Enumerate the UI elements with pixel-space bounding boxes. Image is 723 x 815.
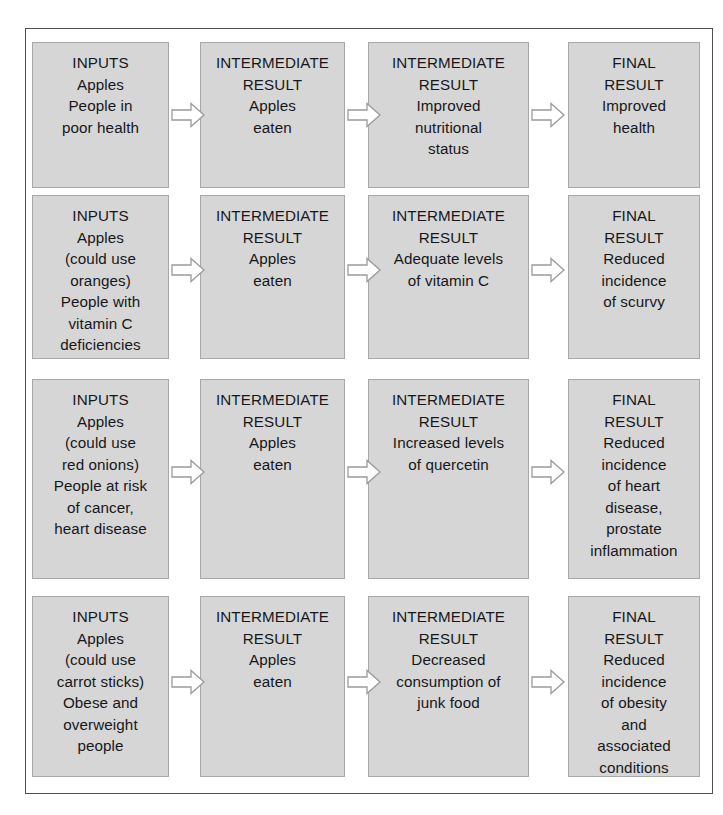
box-header-line: RESULT [569, 227, 699, 249]
box-body-line: Obese and [33, 692, 168, 714]
box-body-line: Adequate levels [369, 248, 528, 270]
box-body-line: health [569, 117, 699, 139]
intermediate-result-box-row-3-b[interactable]: INTERMEDIATERESULTIncreased levelsof que… [368, 379, 529, 579]
box-body-line: red onions) [33, 454, 168, 476]
box-body-line: Apples [201, 248, 344, 270]
box-body-line: of heart [569, 475, 699, 497]
diagram-frame: INPUTSApplesPeople inpoor health INTERME… [25, 28, 713, 794]
box-header-line: INTERMEDIATE [201, 205, 344, 227]
inputs-box-row-3[interactable]: INPUTSApples(could usered onions)People … [32, 379, 169, 579]
box-header-line: FINAL [569, 389, 699, 411]
final-result-box-row-3[interactable]: FINALRESULTReducedincidenceof heartdisea… [568, 379, 700, 579]
box-body-line: status [369, 138, 528, 160]
final-result-box-row-1[interactable]: FINALRESULTImprovedhealth [568, 42, 700, 188]
box-body-line: Apples [33, 227, 168, 249]
box-body-line: of cancer, [33, 497, 168, 519]
box-body-line: incidence [569, 270, 699, 292]
box-header-line: INTERMEDIATE [369, 606, 528, 628]
box-body-line: (could use [33, 432, 168, 454]
box-body-line: incidence [569, 454, 699, 476]
box-body-line: Apples [33, 411, 168, 433]
box-body-line: People in [33, 95, 168, 117]
flow-arrow-right-icon [347, 257, 381, 283]
inputs-box-row-4[interactable]: INPUTSApples(could usecarrot sticks)Obes… [32, 596, 169, 777]
box-body-line: poor health [33, 117, 168, 139]
flow-arrow-right-icon [347, 102, 381, 128]
flow-arrow-right-icon [531, 257, 565, 283]
box-body-line: Reduced [569, 432, 699, 454]
box-body-line: people [33, 735, 168, 757]
box-header-line: FINAL [569, 52, 699, 74]
diagram-row-1: INPUTSApplesPeople inpoor health INTERME… [26, 42, 714, 188]
box-body-line: People at risk [33, 475, 168, 497]
flow-arrow-right-icon [531, 102, 565, 128]
box-body-line: carrot sticks) [33, 671, 168, 693]
intermediate-result-box-row-2-b[interactable]: INTERMEDIATERESULTAdequate levelsof vita… [368, 195, 529, 359]
box-header-line: FINAL [569, 205, 699, 227]
box-body-line: eaten [201, 671, 344, 693]
intermediate-result-box-row-2-a[interactable]: INTERMEDIATERESULTAppleseaten [200, 195, 345, 359]
box-body-line: incidence [569, 671, 699, 693]
diagram-row-4: INPUTSApples(could usecarrot sticks)Obes… [26, 596, 714, 777]
logic-model-figure: INPUTSApplesPeople inpoor health INTERME… [0, 0, 723, 815]
flow-arrow-right-icon [171, 669, 205, 695]
box-body-line: Improved [369, 95, 528, 117]
box-body-line: overweight [33, 714, 168, 736]
intermediate-result-box-row-1-a[interactable]: INTERMEDIATERESULTAppleseaten [200, 42, 345, 188]
box-header-line: INTERMEDIATE [369, 389, 528, 411]
box-body-line: (could use [33, 649, 168, 671]
flow-arrow-right-icon [171, 102, 205, 128]
box-header-line: RESULT [569, 411, 699, 433]
diagram-row-3: INPUTSApples(could usered onions)People … [26, 379, 714, 579]
intermediate-result-box-row-4-a[interactable]: INTERMEDIATERESULTAppleseaten [200, 596, 345, 777]
flow-arrow-right-icon [171, 257, 205, 283]
box-header-line: INPUTS [33, 52, 168, 74]
box-header-line: RESULT [569, 74, 699, 96]
box-body-line: prostate [569, 518, 699, 540]
box-body-line: Apples [33, 628, 168, 650]
box-body-line: (could use [33, 248, 168, 270]
inputs-box-row-1[interactable]: INPUTSApplesPeople inpoor health [32, 42, 169, 188]
box-body-line: of quercetin [369, 454, 528, 476]
box-body-line: Reduced [569, 248, 699, 270]
box-body-line: Apples [201, 649, 344, 671]
intermediate-result-box-row-1-b[interactable]: INTERMEDIATERESULTImprovednutritionalsta… [368, 42, 529, 188]
box-body-line: Decreased [369, 649, 528, 671]
box-body-line: of scurvy [569, 291, 699, 313]
diagram-row-2: INPUTSApples(could useoranges)People wit… [26, 195, 714, 359]
box-header-line: INTERMEDIATE [201, 389, 344, 411]
final-result-box-row-2[interactable]: FINALRESULTReducedincidenceof scurvy [568, 195, 700, 359]
box-header-line: INPUTS [33, 205, 168, 227]
final-result-box-row-4[interactable]: FINALRESULTReducedincidenceof obesityand… [568, 596, 700, 777]
box-body-line: oranges) [33, 270, 168, 292]
box-header-line: RESULT [201, 628, 344, 650]
flow-arrow-right-icon [531, 669, 565, 695]
box-body-line: of vitamin C [369, 270, 528, 292]
box-header-line: INTERMEDIATE [369, 205, 528, 227]
box-body-line: disease, [569, 497, 699, 519]
box-header-line: RESULT [569, 628, 699, 650]
box-body-line: of obesity [569, 692, 699, 714]
box-header-line: FINAL [569, 606, 699, 628]
box-body-line: junk food [369, 692, 528, 714]
box-header-line: RESULT [201, 227, 344, 249]
box-header-line: INTERMEDIATE [369, 52, 528, 74]
box-body-line: deficiencies [33, 334, 168, 356]
flow-arrow-right-icon [171, 459, 205, 485]
box-header-line: INPUTS [33, 389, 168, 411]
box-body-line: consumption of [369, 671, 528, 693]
box-body-line: conditions [569, 757, 699, 779]
inputs-box-row-2[interactable]: INPUTSApples(could useoranges)People wit… [32, 195, 169, 359]
box-body-line: heart disease [33, 518, 168, 540]
box-body-line: inflammation [569, 540, 699, 562]
box-body-line: and [569, 714, 699, 736]
box-body-line: Apples [33, 74, 168, 96]
box-body-line: Apples [201, 432, 344, 454]
box-header-line: INPUTS [33, 606, 168, 628]
box-header-line: INTERMEDIATE [201, 606, 344, 628]
box-header-line: RESULT [369, 227, 528, 249]
intermediate-result-box-row-4-b[interactable]: INTERMEDIATERESULTDecreasedconsumption o… [368, 596, 529, 777]
flow-arrow-right-icon [347, 459, 381, 485]
intermediate-result-box-row-3-a[interactable]: INTERMEDIATERESULTAppleseaten [200, 379, 345, 579]
box-body-line: nutritional [369, 117, 528, 139]
